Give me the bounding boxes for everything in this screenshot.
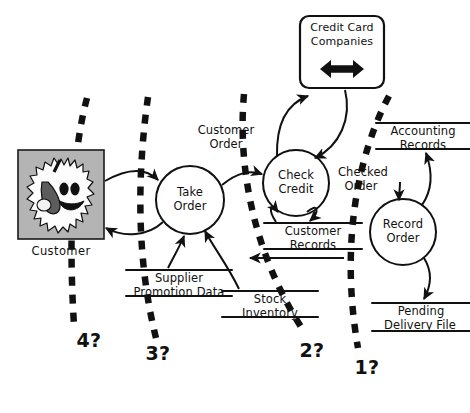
- external-entity-customer[interactable]: [18, 150, 104, 239]
- flow-supplier-promotion-to-take-order: [168, 236, 184, 268]
- flow-record-order-to-accounting-records: [422, 153, 431, 205]
- data-store-stock-inventory[interactable]: [222, 291, 318, 317]
- process-take-order[interactable]: [156, 166, 224, 234]
- process-record-order[interactable]: [370, 199, 436, 265]
- flow-customer-records-to-check-credit: [271, 207, 278, 222]
- process-circles: [156, 150, 436, 265]
- flow-check-credit-to-record-order: [399, 182, 400, 200]
- external-entity-credit-card-companies[interactable]: [300, 16, 384, 88]
- process-check-credit[interactable]: [263, 150, 329, 216]
- flow-customer-to-take-order: [105, 171, 158, 181]
- data-store-supplier-promotion-data[interactable]: [126, 270, 232, 296]
- partition-curve-3: [140, 97, 156, 338]
- flow-check-credit-to-credit-card-companies: [277, 96, 308, 157]
- dfd-canvas: [0, 0, 470, 413]
- data-store-accounting-records[interactable]: [376, 123, 470, 149]
- flow-take-order-to-customer: [106, 222, 163, 234]
- flow-record-order-to-pending-delivery-file: [424, 258, 430, 299]
- data-store-pending-delivery-file[interactable]: [372, 303, 470, 331]
- flow-credit-card-companies-to-check-credit: [315, 90, 347, 158]
- data-store-customer-records[interactable]: [264, 223, 362, 249]
- flow-take-order-to-check-credit: [222, 172, 262, 185]
- flow-stock-inventory-to-take-order: [205, 231, 239, 289]
